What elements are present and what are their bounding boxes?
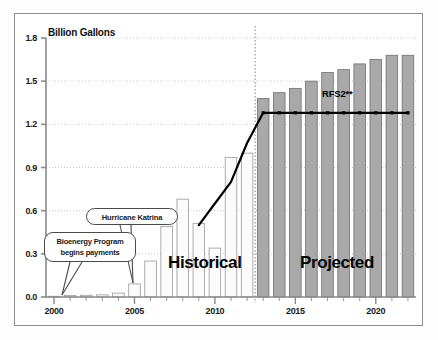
x-tick-label: 2020: [356, 306, 396, 316]
y-tick-label: 0.9: [13, 163, 37, 173]
x-tick-label: 2005: [114, 306, 154, 316]
x-tick-label: 2000: [34, 306, 74, 316]
y-tick-label: 0.0: [13, 292, 37, 302]
annotation-bioenergy-program: Bioenergy Program begins payments: [44, 232, 136, 262]
x-tick-label: 2010: [195, 306, 235, 316]
annotation-bioenergy-line2: begins payments: [50, 247, 130, 258]
rfs2-line-label: RFS2**: [322, 88, 352, 99]
chart-screenshot: Billion Gallons 0.00.30.60.91.21.51.8 20…: [0, 0, 438, 340]
y-tick-label: 1.8: [13, 33, 37, 43]
x-tick-label: 2015: [275, 306, 315, 316]
region-label-historical: Historical: [168, 253, 241, 273]
annotation-bioenergy-line1: Bioenergy Program: [50, 236, 130, 247]
y-tick-label: 1.2: [13, 119, 37, 129]
y-tick-label: 0.6: [13, 206, 37, 216]
y-tick-label: 1.5: [13, 76, 37, 86]
y-axis-title: Billion Gallons: [48, 27, 115, 38]
region-label-projected: Projected: [300, 253, 374, 273]
y-tick-label: 0.3: [13, 249, 37, 259]
annotation-hurricane-katrina: Hurricane Katrina: [86, 208, 178, 225]
chart-canvas: [0, 0, 438, 340]
